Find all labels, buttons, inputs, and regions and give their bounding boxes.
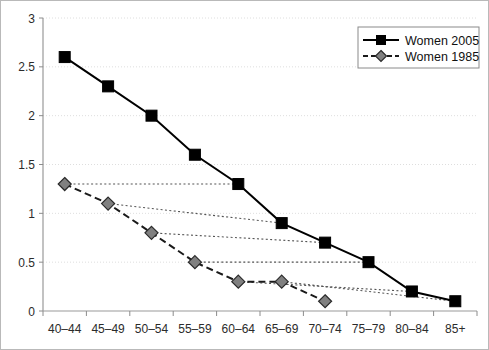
legend-label: Women 1985: [405, 50, 479, 64]
cohort-connector: [238, 282, 412, 292]
data-point-women-2005: [363, 257, 374, 268]
x-tick-label: 50–54: [135, 322, 169, 336]
chart-legend[interactable]: Women 2005Women 1985: [358, 27, 479, 68]
data-point-women-2005: [189, 149, 200, 160]
x-tick-label: 75–79: [352, 322, 386, 336]
y-tick-label: 3: [28, 12, 35, 26]
data-point-women-1985: [188, 256, 201, 269]
y-tick-label: 1: [28, 207, 35, 221]
data-point-women-2005: [103, 81, 114, 92]
series-line-women-2005: [65, 57, 456, 301]
legend-item-women-1985[interactable]: Women 1985: [363, 50, 479, 64]
data-point-women-1985: [319, 295, 332, 308]
cohort-connector: [282, 282, 456, 302]
data-point-women-2005: [233, 179, 244, 190]
x-tick-label: 45–49: [91, 322, 125, 336]
x-tick-label: 85+: [445, 322, 465, 336]
legend-label: Women 2005: [405, 34, 479, 48]
x-axis-tick-labels: 40–4445–4950–5455–5960–6465–6970–7475–79…: [48, 322, 465, 336]
x-tick-label: 55–59: [178, 322, 212, 336]
data-point-women-2005: [450, 296, 461, 307]
data-point-women-2005: [406, 286, 417, 297]
data-point-women-1985: [145, 226, 158, 239]
chart-container: 00.511.522.53 40–4445–4950–5455–5960–646…: [0, 0, 489, 350]
data-point-women-1985: [275, 275, 288, 288]
y-tick-label: 0.5: [18, 256, 35, 270]
data-point-women-2005: [59, 52, 70, 63]
x-tick-label: 60–64: [222, 322, 256, 336]
data-point-women-1985: [102, 197, 115, 210]
series-markers-group: [58, 52, 461, 308]
series-lines-group: [65, 57, 456, 301]
data-point-women-2005: [276, 218, 287, 229]
x-tick-label: 65–69: [265, 322, 299, 336]
cohort-connector: [152, 233, 326, 243]
data-point-women-1985: [58, 178, 71, 191]
data-point-women-2005: [320, 237, 331, 248]
y-tick-label: 2.5: [18, 60, 35, 74]
cohort-connector-lines: [65, 184, 456, 301]
x-tick-label: 80–84: [395, 322, 429, 336]
data-point-women-2005: [146, 110, 157, 121]
x-tick-label: 70–74: [308, 322, 342, 336]
y-tick-label: 1.5: [18, 158, 35, 172]
y-tick-label: 2: [28, 109, 35, 123]
y-axis-tick-labels: 00.511.522.53: [18, 12, 35, 319]
data-point-women-1985: [232, 275, 245, 288]
y-tick-label: 0: [28, 305, 35, 319]
x-tick-label: 40–44: [48, 322, 82, 336]
line-chart: 00.511.522.53 40–4445–4950–5455–5960–646…: [1, 1, 488, 349]
legend-marker-square: [377, 36, 386, 45]
